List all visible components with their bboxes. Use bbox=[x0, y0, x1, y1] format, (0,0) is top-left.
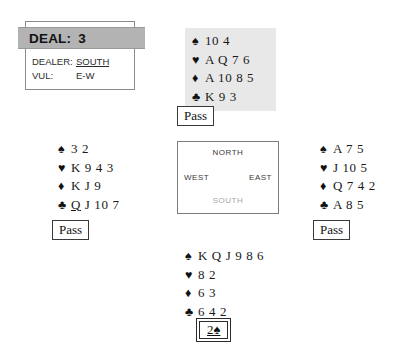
compass-box: NORTH WEST EAST SOUTH bbox=[177, 141, 279, 214]
heart-icon: ♥ bbox=[320, 160, 333, 178]
east-clubs: A 8 5 bbox=[333, 196, 364, 214]
west-spades: 3 2 bbox=[71, 140, 89, 158]
west-hearts-row: ♥ K 9 4 3 bbox=[58, 159, 120, 178]
dealer-value: SOUTH bbox=[76, 55, 109, 69]
south-spades-row: ♠ K Q J 9 8 6 bbox=[185, 247, 264, 266]
south-spades: K Q J 9 8 6 bbox=[198, 247, 264, 265]
deal-label: DEAL: bbox=[29, 31, 71, 46]
deal-metadata: DEALER: SOUTH VUL: E-W bbox=[32, 55, 109, 83]
hand-east: ♠ A 7 5 ♥ J 10 5 ♦ Q 7 4 2 ♣ A 8 5 bbox=[320, 140, 376, 214]
north-hearts: A Q 7 6 bbox=[205, 51, 250, 69]
vulnerability-row: VUL: E-W bbox=[32, 69, 109, 83]
compass-west-label: WEST bbox=[184, 173, 209, 182]
south-hearts-row: ♥ 8 2 bbox=[185, 266, 264, 285]
compass-south-label: SOUTH bbox=[178, 196, 278, 205]
west-clubs-rest: J 10 7 bbox=[81, 197, 120, 212]
north-hearts-row: ♥ A Q 7 6 bbox=[192, 51, 254, 70]
west-clubs-row: ♣ Q J 10 7 bbox=[58, 196, 120, 215]
east-hearts: J 10 5 bbox=[333, 159, 368, 177]
hand-north: ♠ 10 4 ♥ A Q 7 6 ♦ A 10 8 5 ♣ K 9 3 bbox=[185, 28, 276, 111]
spade-icon: ♠ bbox=[58, 141, 71, 159]
south-hearts: 8 2 bbox=[198, 266, 216, 284]
heart-icon: ♥ bbox=[192, 52, 205, 70]
west-hearts: K 9 4 3 bbox=[71, 159, 114, 177]
vulnerability-label: VUL: bbox=[32, 69, 76, 83]
east-clubs-row: ♣ A 8 5 bbox=[320, 196, 376, 215]
spade-icon: ♠ bbox=[192, 33, 205, 51]
east-diamonds-row: ♦ Q 7 4 2 bbox=[320, 177, 376, 196]
bid-east[interactable]: Pass bbox=[313, 220, 350, 240]
diamond-icon: ♦ bbox=[192, 70, 205, 88]
north-diamonds: A 10 8 5 bbox=[205, 69, 254, 87]
deal-number: 3 bbox=[78, 31, 86, 46]
bid-south[interactable]: 2♠ bbox=[196, 318, 231, 342]
heart-icon: ♥ bbox=[185, 267, 198, 285]
club-icon: ♣ bbox=[192, 89, 205, 107]
east-spades: A 7 5 bbox=[333, 140, 364, 158]
spade-icon: ♠ bbox=[185, 248, 198, 266]
diamond-icon: ♦ bbox=[320, 178, 333, 196]
west-diamonds-row: ♦ K J 9 bbox=[58, 177, 120, 196]
dealer-row: DEALER: SOUTH bbox=[32, 55, 109, 69]
east-diamonds: Q 7 4 2 bbox=[333, 177, 376, 195]
north-spades-row: ♠ 10 4 bbox=[192, 32, 254, 51]
club-icon: ♣ bbox=[320, 197, 333, 215]
bid-south-text: 2♠ bbox=[207, 322, 220, 337]
north-diamonds-row: ♦ A 10 8 5 bbox=[192, 69, 254, 88]
bid-south-inner: 2♠ bbox=[199, 321, 228, 339]
club-icon: ♣ bbox=[58, 197, 71, 215]
deal-header-bar: DEAL: 3 bbox=[18, 27, 145, 49]
west-clubs: Q J 10 7 bbox=[71, 196, 120, 214]
north-spades: 10 4 bbox=[205, 32, 230, 50]
east-spades-row: ♠ A 7 5 bbox=[320, 140, 376, 159]
east-hearts-row: ♥ J 10 5 bbox=[320, 159, 376, 178]
opening-lead-card: Q bbox=[71, 197, 81, 212]
bid-west[interactable]: Pass bbox=[52, 220, 89, 240]
compass-north-label: NORTH bbox=[178, 148, 278, 157]
diamond-icon: ♦ bbox=[58, 178, 71, 196]
spade-icon: ♠ bbox=[320, 141, 333, 159]
hand-west: ♠ 3 2 ♥ K 9 4 3 ♦ K J 9 ♣ Q J 10 7 bbox=[58, 140, 120, 214]
vulnerability-value: E-W bbox=[76, 69, 94, 83]
diamond-icon: ♦ bbox=[185, 285, 198, 303]
dealer-label: DEALER: bbox=[32, 55, 76, 69]
west-spades-row: ♠ 3 2 bbox=[58, 140, 120, 159]
bid-north[interactable]: Pass bbox=[177, 106, 214, 126]
west-diamonds: K J 9 bbox=[71, 177, 101, 195]
heart-icon: ♥ bbox=[58, 160, 71, 178]
hand-south: ♠ K Q J 9 8 6 ♥ 8 2 ♦ 6 3 ♣ 6 4 2 bbox=[185, 247, 264, 321]
south-diamonds-row: ♦ 6 3 bbox=[185, 284, 264, 303]
north-clubs: K 9 3 bbox=[205, 88, 237, 106]
north-clubs-row: ♣ K 9 3 bbox=[192, 88, 254, 107]
south-diamonds: 6 3 bbox=[198, 284, 216, 302]
compass-east-label: EAST bbox=[249, 173, 272, 182]
